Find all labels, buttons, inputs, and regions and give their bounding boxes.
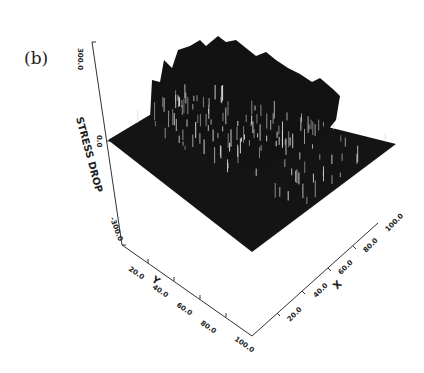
y-axis-title: Y [149, 273, 163, 287]
x-tick-80: 80.0 [362, 236, 380, 254]
y-tick-40: 40.0 [151, 283, 170, 300]
y-tick-20: 20.0 [127, 265, 146, 282]
x-tick-100: 100.0 [384, 212, 405, 233]
y-tick-80: 80.0 [199, 319, 218, 336]
surface-plot: 300.0 0.0 -300.0 STRESS DROP 20.0 40.0 6… [0, 0, 424, 373]
x-axis-title: X [331, 278, 344, 291]
y-axis: 20.0 40.0 60.0 80.0 100.0 Y [122, 245, 256, 354]
x-tick-40: 40.0 [312, 281, 330, 299]
x-tick-20: 20.0 [286, 305, 304, 323]
z-tick-300: 300.0 [76, 48, 84, 70]
z-tick-neg300: -300.0 [108, 216, 124, 242]
x-tick-60: 60.0 [337, 258, 355, 276]
z-tick-0: 0.0 [95, 135, 103, 148]
y-tick-60: 60.0 [175, 301, 194, 318]
y-tick-100: 100.0 [233, 335, 256, 354]
z-axis-title: STRESS DROP [74, 116, 105, 194]
